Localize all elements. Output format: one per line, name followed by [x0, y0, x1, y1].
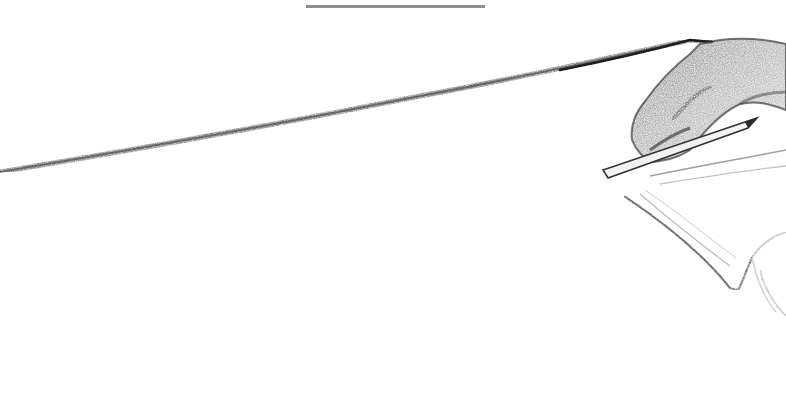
hand-drawing [632, 39, 786, 162]
drawn-line [0, 40, 712, 172]
paper-sheet [624, 150, 786, 316]
pencil-sketch-illustration [0, 0, 786, 420]
sketch-canvas [0, 0, 786, 420]
